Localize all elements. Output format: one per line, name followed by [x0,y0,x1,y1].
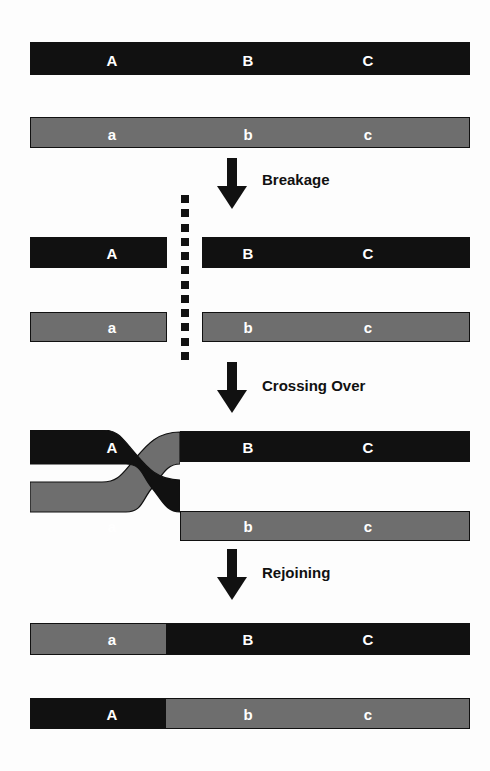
segment-black [31,699,166,728]
dotted-break-line [181,195,189,360]
break-dot [181,266,189,274]
break-dot [181,195,189,203]
segment-gray [31,624,166,654]
break-dot [181,224,189,232]
crossing-over-diagram: A B C a b c Breakage A B C [0,0,490,771]
step-crossing-over [215,362,249,414]
break-dot [181,338,189,346]
chromosome-lower-left-fragment [30,312,167,342]
step-label-rejoining: Rejoining [262,565,330,580]
break-dot [181,238,189,246]
break-dot [181,323,189,331]
step-label-breakage: Breakage [262,172,330,187]
step-label-crossing-over: Crossing Over [262,378,365,393]
step-rejoining [215,549,249,601]
chromosome-lower-right-fragment [202,312,470,342]
chromosome-upper-right-fragment [202,237,470,268]
down-arrow-icon [215,362,249,414]
down-arrow-icon [215,158,249,210]
chromosome-upper-right-crossed [180,431,470,462]
segment-black [166,624,469,654]
chromosome-lower-right-crossed [180,511,470,541]
chromosome-recombinant-upper [30,623,470,655]
chromosome-upper-intact [30,42,470,75]
chromosome-upper-left-fragment [30,237,167,268]
break-dot [181,352,189,360]
chromosome-recombinant-lower [30,698,470,729]
break-dot [181,209,189,217]
segment-gray [166,699,469,728]
break-dot [181,281,189,289]
crossover-x-shape [30,430,180,542]
break-dot [181,252,189,260]
break-dot [181,295,189,303]
down-arrow-icon [215,549,249,601]
break-dot [181,309,189,317]
step-breakage [215,158,249,210]
chromosome-lower-intact [30,117,470,148]
